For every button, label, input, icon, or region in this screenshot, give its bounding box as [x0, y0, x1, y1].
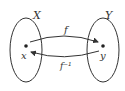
set-y-label: Y — [105, 10, 112, 21]
arrow-f-label: f — [64, 25, 68, 35]
element-y-dot — [101, 44, 105, 48]
element-y-label: y — [100, 51, 106, 61]
arrow-f-inverse — [31, 51, 99, 57]
element-x-label: x — [21, 51, 27, 61]
set-x-label: X — [33, 10, 41, 21]
arrow-f-inverse-label: f⁻¹ — [60, 62, 72, 71]
element-x-dot — [24, 44, 28, 48]
